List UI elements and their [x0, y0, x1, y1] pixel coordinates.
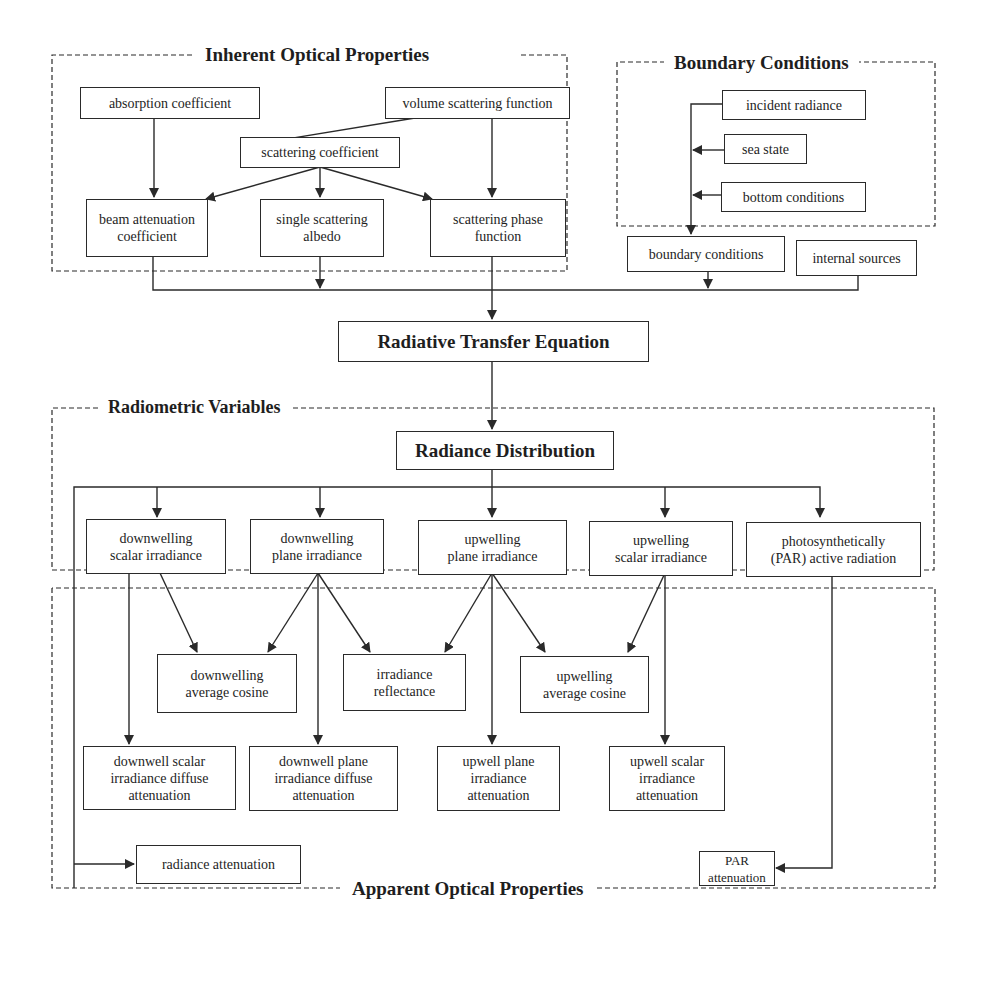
radiometric-region-title: Radiometric Variables — [98, 396, 291, 418]
aop-region-border — [52, 588, 935, 888]
downwell-plane-irradiance-diffuse-attenuation-box: downwell plane irradiance diffuse attenu… — [249, 746, 398, 811]
par-box: photosynthetically (PAR) active radiatio… — [746, 522, 921, 577]
upwell-plane-irradiance-attenuation-box: upwell plane irradiance attenuation — [437, 746, 560, 811]
connector-layer — [0, 0, 983, 981]
boundary-conditions-box: boundary conditions — [627, 236, 785, 272]
bottom-conditions-box: bottom conditions — [721, 182, 866, 212]
radiance-distribution-box: Radiance Distribution — [396, 431, 614, 470]
incident-radiance-box: incident radiance — [722, 90, 866, 120]
aop-region-title: Apparent Optical Properties — [342, 878, 594, 900]
par-attenuation-box: PAR attenuation — [699, 851, 775, 886]
upwelling-average-cosine-box: upwelling average cosine — [520, 656, 649, 713]
irradiance-reflectance-box: irradiance reflectance — [343, 654, 466, 711]
iop-region-title: Inherent Optical Properties — [195, 44, 439, 66]
downwell-scalar-irradiance-diffuse-attenuation-box: downwell scalar irradiance diffuse atten… — [83, 746, 236, 810]
upwelling-plane-irradiance-box: upwelling plane irradiance — [418, 520, 567, 575]
volume-scattering-function-box: volume scattering function — [385, 87, 570, 119]
downwelling-scalar-irradiance-box: downwelling scalar irradiance — [86, 519, 226, 574]
internal-sources-box: internal sources — [796, 240, 917, 276]
sea-state-box: sea state — [724, 134, 807, 164]
downwelling-average-cosine-box: downwelling average cosine — [157, 654, 297, 713]
single-scattering-albedo-box: single scattering albedo — [260, 199, 384, 257]
scattering-phase-function-box: scattering phase function — [430, 199, 566, 257]
downwelling-plane-irradiance-box: downwelling plane irradiance — [250, 519, 384, 574]
radiative-transfer-equation-box: Radiative Transfer Equation — [338, 321, 649, 362]
upwelling-scalar-irradiance-box: upwelling scalar irradiance — [589, 521, 733, 576]
radiance-attenuation-box: radiance attenuation — [136, 845, 301, 884]
scattering-coefficient-box: scattering coefficient — [240, 137, 400, 168]
boundary-region-title: Boundary Conditions — [664, 52, 859, 74]
upwell-scalar-irradiance-attenuation-box: upwell scalar irradiance attenuation — [609, 746, 725, 811]
beam-attenuation-coefficient-box: beam attenuation coefficient — [86, 199, 208, 257]
absorption-coefficient-box: absorption coefficient — [80, 87, 260, 119]
